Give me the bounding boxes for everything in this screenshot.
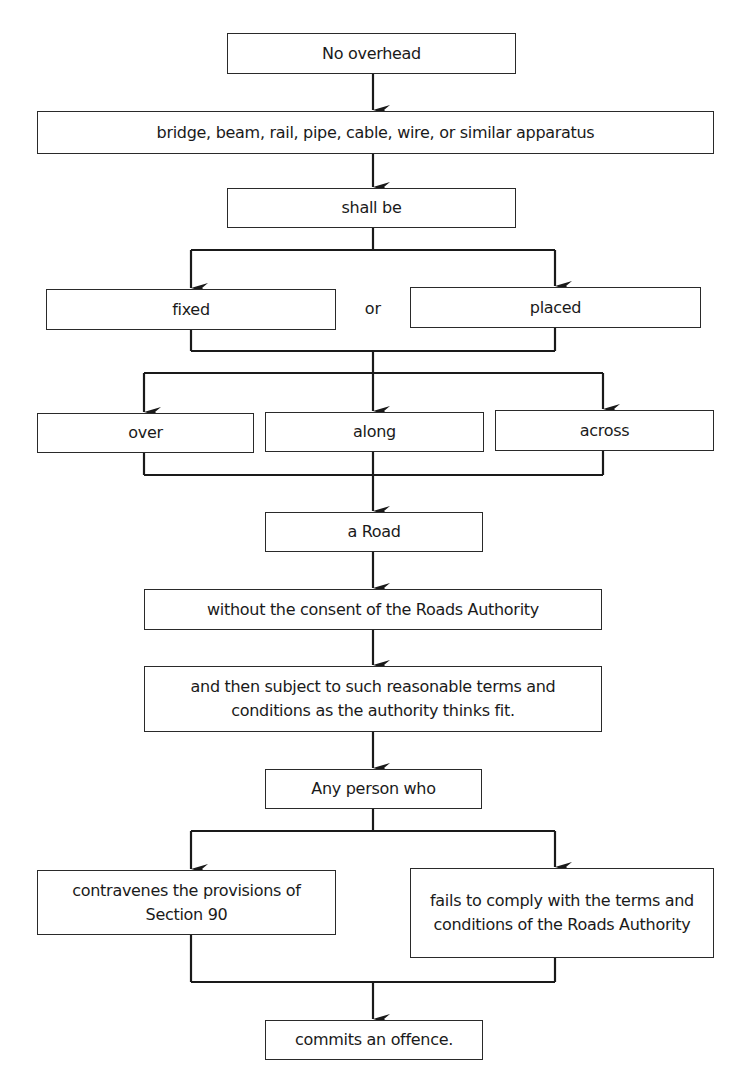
node-across: across [495, 410, 714, 451]
node-label: contravenes the provisions of Section 90 [44, 879, 329, 927]
node-fixed: fixed [46, 289, 336, 330]
node-label: shall be [342, 196, 402, 220]
node-label: along [353, 420, 396, 444]
node-along: along [265, 412, 484, 452]
node-label: commits an offence. [295, 1028, 453, 1052]
node-label: over [128, 421, 162, 445]
node-any-person: Any person who [265, 769, 482, 809]
node-contravenes: contravenes the provisions of Section 90 [37, 870, 336, 935]
node-label: placed [530, 296, 581, 320]
node-label: without the consent of the Roads Authori… [207, 598, 539, 622]
node-shall-be: shall be [227, 188, 516, 228]
node-label: No overhead [322, 42, 421, 66]
node-without-consent: without the consent of the Roads Authori… [144, 589, 602, 630]
or-connector-label: or [365, 299, 381, 318]
node-label: fails to comply with the terms and condi… [417, 889, 707, 937]
node-fails-to-comply: fails to comply with the terms and condi… [410, 868, 714, 958]
node-a-road: a Road [265, 512, 483, 552]
node-no-overhead: No overhead [227, 33, 516, 74]
node-apparatus: bridge, beam, rail, pipe, cable, wire, o… [37, 111, 714, 154]
flowchart-canvas: No overhead bridge, beam, rail, pipe, ca… [0, 0, 749, 1092]
node-over: over [37, 413, 254, 453]
node-label: across [580, 419, 630, 443]
node-label: a Road [347, 520, 400, 544]
node-placed: placed [410, 287, 701, 328]
node-label: Any person who [311, 777, 435, 801]
node-commits-offence: commits an offence. [265, 1020, 483, 1060]
node-label: bridge, beam, rail, pipe, cable, wire, o… [157, 121, 595, 145]
node-label: and then subject to such reasonable term… [151, 675, 595, 723]
node-subject-to-terms: and then subject to such reasonable term… [144, 666, 602, 732]
node-label: fixed [172, 298, 210, 322]
